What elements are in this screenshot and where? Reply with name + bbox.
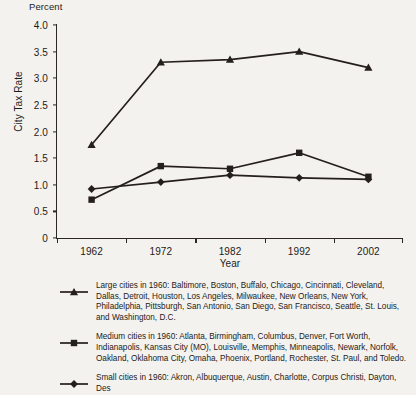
x-tick-mark — [402, 238, 403, 243]
diamond-marker — [70, 380, 78, 388]
y-tick-label: 0.5 — [34, 206, 48, 217]
y-axis-title: City Tax Rate — [13, 42, 24, 162]
square-marker — [296, 150, 302, 156]
legend-label: Large cities in 1960: Baltimore, Boston,… — [96, 281, 410, 323]
y-axis-unit-label: Percent — [29, 1, 62, 12]
x-axis-title: Year — [57, 258, 403, 269]
plot-area: 00.51.01.52.02.53.03.54.0 19621972198219… — [57, 25, 403, 238]
legend-entry: Large cities in 1960: Baltimore, Boston,… — [0, 281, 416, 323]
diamond-marker — [88, 185, 96, 193]
triangle-legend-icon — [60, 287, 88, 297]
diamond-legend-icon — [60, 379, 88, 389]
series-layer — [57, 25, 403, 238]
y-tick-label: 2.0 — [34, 126, 48, 137]
legend-key — [60, 375, 88, 385]
diamond-marker — [226, 171, 234, 179]
y-tick-label: 1.5 — [34, 153, 48, 164]
legend-entry: Small cities in 1960: Akron, Albuquerque… — [0, 373, 416, 394]
square-legend-icon — [60, 338, 88, 348]
x-axis-line — [56, 238, 403, 239]
square-marker — [88, 196, 94, 202]
x-tick-label: 1962 — [80, 246, 103, 257]
x-tick-mark — [126, 238, 127, 243]
square-marker — [158, 163, 164, 169]
x-tick-label: 1982 — [219, 246, 242, 257]
diamond-marker — [295, 174, 303, 182]
square-marker — [227, 166, 233, 172]
legend-label: Small cities in 1960: Akron, Albuquerque… — [96, 373, 410, 394]
y-tick-label: 3.5 — [34, 46, 48, 57]
legend-key — [60, 283, 88, 293]
x-tick-label: 2002 — [357, 246, 380, 257]
legend-entry: Medium cities in 1960: Atlanta, Birmingh… — [0, 332, 416, 364]
series-line — [92, 52, 369, 145]
x-tick-mark — [265, 238, 266, 243]
y-tick-label: 0 — [42, 233, 48, 244]
y-tick-label: 3.0 — [34, 73, 48, 84]
y-tick-label: 2.5 — [34, 99, 48, 110]
y-tick-label: 1.0 — [34, 179, 48, 190]
y-tick-label: 4.0 — [34, 20, 48, 31]
x-tick-mark — [195, 238, 196, 243]
x-tick-label: 1972 — [149, 246, 172, 257]
x-tick-mark — [57, 238, 58, 243]
x-tick-mark — [334, 238, 335, 243]
series-large-cities — [88, 48, 373, 148]
square-marker — [71, 340, 77, 346]
diamond-marker — [157, 178, 165, 186]
x-tick-label: 1992 — [288, 246, 311, 257]
chart-legend: Large cities in 1960: Baltimore, Boston,… — [0, 281, 416, 395]
legend-key — [60, 334, 88, 344]
series-small-cities — [88, 171, 373, 193]
legend-label: Medium cities in 1960: Atlanta, Birmingh… — [96, 332, 410, 364]
